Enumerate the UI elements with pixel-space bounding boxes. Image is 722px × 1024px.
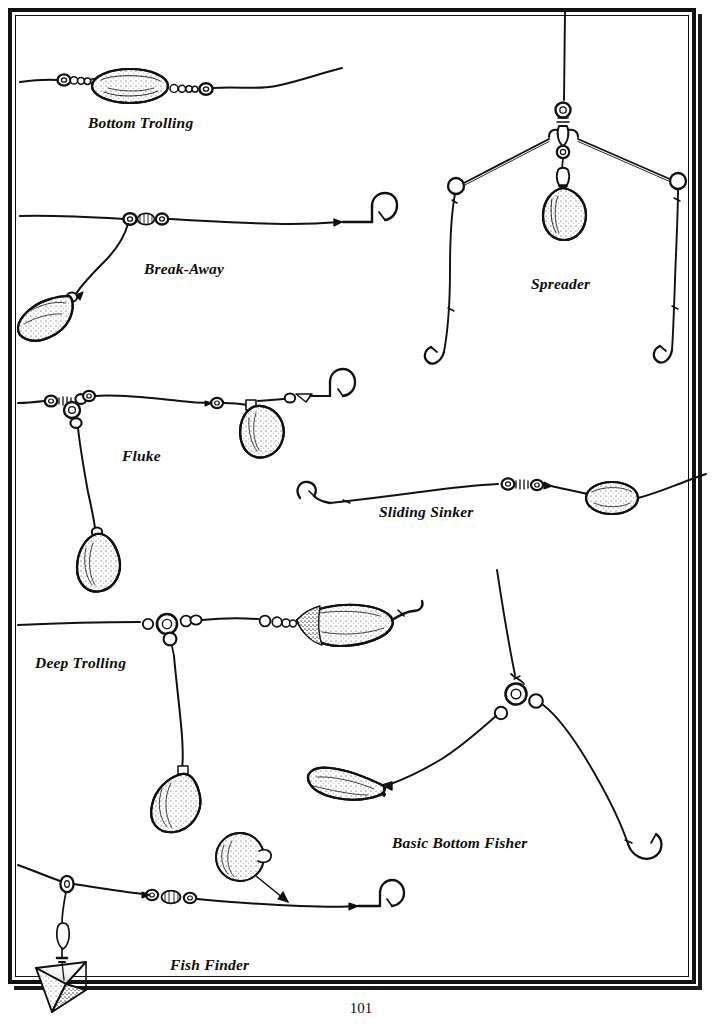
rig-label-fluke: Fluke [122, 448, 161, 464]
book-page: Bottom Trolling Break-Away Spreader Fluk… [0, 0, 722, 1024]
rig-label-fish-finder: Fish Finder [170, 957, 249, 973]
rig-bottom-trolling [20, 68, 342, 103]
rig-label-break-away: Break-Away [144, 261, 224, 277]
rig-fluke [18, 369, 355, 592]
rig-fish-finder [18, 833, 404, 1012]
rig-label-sliding-sinker: Sliding Sinker [379, 504, 474, 520]
rig-label-spreader: Spreader [531, 276, 590, 292]
rig-label-basic-bottom-fisher: Basic Bottom Fisher [392, 835, 528, 851]
rig-spreader [425, 12, 686, 364]
rig-label-deep-trolling: Deep Trolling [35, 655, 126, 671]
rig-label-bottom-trolling: Bottom Trolling [88, 115, 193, 131]
fishing-rigs-illustration [0, 0, 722, 1024]
rig-sliding-sinker [298, 474, 706, 514]
page-number: 101 [0, 1000, 722, 1017]
